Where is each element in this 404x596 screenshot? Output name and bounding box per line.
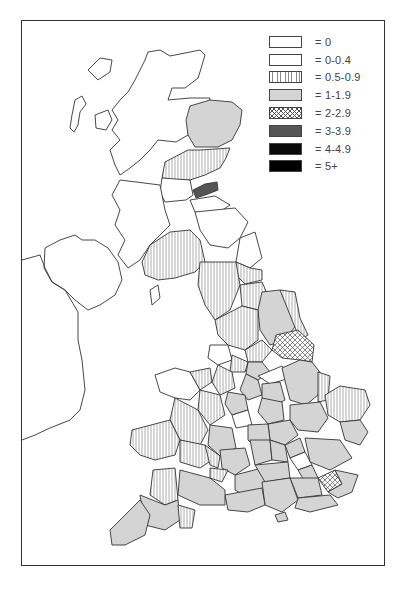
region-merseyside [208,345,232,365]
legend-label: = 0.5-0.9 [315,71,361,83]
region-cornwall [110,500,150,545]
region-fife [193,182,218,198]
legend-item-3: = 1-1.9 [269,86,379,104]
region-norfolk [325,386,370,422]
region-iow [275,512,288,522]
legend-label: = 0-0.4 [315,54,351,66]
legend-swatch-light-grey [269,89,302,101]
legend-item-7: = 5+ [269,158,379,176]
legend-label: = 3-3.9 [315,125,351,137]
region-hebrides [70,96,86,132]
region-suffolk [340,420,368,445]
legend-swatch-crosshatch [269,107,302,119]
legend-label: = 5+ [315,160,338,172]
region-n-devon [150,468,178,505]
region-orkney-coast [88,58,112,80]
legend-item-2: = 0.5-0.9 [269,69,379,87]
legend-label: = 4-4.9 [315,143,351,155]
region-lincs [282,360,322,405]
legend-label: = 0 [315,36,331,48]
region-isle-of-man [150,285,160,305]
legend-swatch-black [269,160,302,172]
legend-swatch-black [269,143,302,155]
region-northern-ireland [44,235,122,310]
region-dorset [225,488,265,512]
legend-item-6: = 4-4.9 [269,140,379,158]
legend-item-5: = 3-3.9 [269,122,379,140]
legend-swatch-white [269,36,302,48]
legend-label: = 1-1.9 [315,89,351,101]
region-dyfed [130,420,180,460]
region-oxon [250,440,272,465]
region-grampian [186,100,242,147]
legend-swatch-white [269,54,302,66]
legend-swatch-dark-grey [269,125,302,137]
legend-item-4: = 2-2.9 [269,104,379,122]
region-central [160,178,193,202]
region-gtr-manchester [230,355,248,372]
legend-label: = 2-2.9 [315,107,351,119]
region-tayside [162,148,230,180]
legend-item-1: = 0-0.4 [269,51,379,69]
region-skye [95,110,112,130]
map-legend: = 0 = 0-0.4 = 0.5-0.9 = 1-1.9 = 2-2.9 = … [269,33,379,175]
region-s-devon [178,505,195,528]
region-sussex [295,495,338,512]
legend-swatch-vertical-hatch [269,71,302,83]
region-leics [258,398,284,424]
region-cambs [290,402,328,432]
legend-item-0: = 0 [269,33,379,51]
